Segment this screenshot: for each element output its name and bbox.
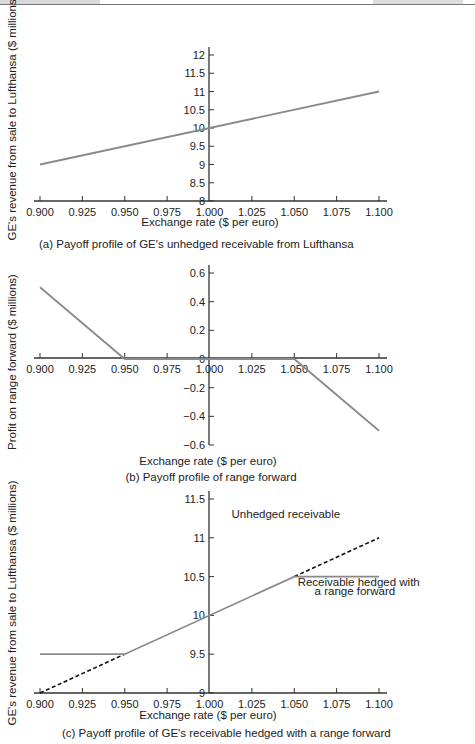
x-tick-label: 0.950 [111,698,139,710]
panel-b: Profit on range forward ($ millions) 0.9… [6,265,393,483]
y-tick-label: 9.5 [190,648,205,660]
panel-a-axes: 0.9000.9250.9500.9751.0001.0251.0501.075… [26,47,393,218]
y-tick-label: 0.6 [190,267,205,279]
panel-c-caption: (c) Payoff profile of GE's receivable he… [62,727,391,739]
panel-c: GE's revenue from sale to Lufthansa ($ m… [6,480,420,739]
x-tick-label: 0.925 [69,698,97,710]
x-tick-label: 0.900 [26,206,54,218]
y-tick-label: −0.6 [183,439,205,451]
y-tick-label: 0.2 [190,324,205,336]
x-tick-label: 1.075 [323,206,351,218]
y-tick-label: −0.4 [183,410,205,422]
panel-a-xlabel: Exchange rate ($ per euro) [141,216,279,228]
y-tick-label: 10.5 [184,104,205,116]
panel-c-annotations: Unhedged receivableReceivable hedged wit… [232,508,420,597]
x-tick-label: 1.100 [365,698,393,710]
x-tick-label: 1.100 [365,363,393,375]
x-tick-label: 0.950 [111,363,139,375]
x-tick-label: 0.900 [26,363,54,375]
x-tick-label: 1.075 [323,698,351,710]
y-tick-label: 12 [193,49,205,61]
panel-b-axes: 0.9000.9250.9500.9751.0001.0251.0501.075… [26,265,393,451]
series-annotation: a range forward [315,585,396,597]
y-tick-label: 0.4 [190,296,205,308]
x-tick-label: 0.925 [69,363,97,375]
x-tick-label: 0.925 [69,206,97,218]
x-tick-label: 1.025 [238,363,266,375]
panel-a-caption: (a) Payoff profile of GE's unhedged rece… [39,238,354,250]
y-tick-label: 8 [199,195,205,207]
y-tick-label: 10 [193,122,205,134]
y-tick-label: 10.5 [184,571,205,583]
x-tick-label: 1.050 [280,698,308,710]
panel-a: GE's revenue from sale to Lufthansa ($ m… [6,0,393,250]
y-tick-label: 11 [194,532,205,544]
panel-a-ylabel: GE's revenue from sale to Lufthansa ($ m… [6,0,18,241]
series-line [294,538,379,577]
panel-b-ylabel: Profit on range forward ($ millions) [6,274,18,450]
y-tick-label: 11.5 [184,493,205,505]
x-tick-label: 0.900 [26,698,54,710]
y-tick-label: 11.5 [184,67,205,79]
x-tick-label: 1.050 [280,206,308,218]
panel-c-ylabel: GE's revenue from sale to Lufthansa ($ m… [6,480,18,725]
panel-b-xlabel: Exchange rate ($ per euro) [139,455,277,467]
x-tick-label: 0.975 [153,363,181,375]
y-tick-label: 9 [199,159,205,171]
y-tick-label: 8.5 [190,177,205,189]
y-tick-label: 9 [199,687,205,699]
x-tick-label: 1.100 [365,206,393,218]
x-tick-label: 1.075 [323,363,351,375]
series-annotation: Unhedged receivable [232,508,341,520]
x-tick-label: 0.950 [111,206,139,218]
panel-c-xlabel: Exchange rate ($ per euro) [139,709,277,721]
series-line [40,654,125,693]
panel-b-caption: (b) Payoff profile of range forward [125,471,296,483]
y-tick-label: 11 [194,86,205,98]
panel-c-axes: 0.9000.9250.9500.9751.0001.0251.0501.075… [26,491,393,710]
x-tick-label: 1.050 [280,363,308,375]
y-tick-label: 9.5 [190,140,205,152]
figure-canvas: GE's revenue from sale to Lufthansa ($ m… [0,0,475,744]
y-tick-label: −0.2 [183,382,205,394]
